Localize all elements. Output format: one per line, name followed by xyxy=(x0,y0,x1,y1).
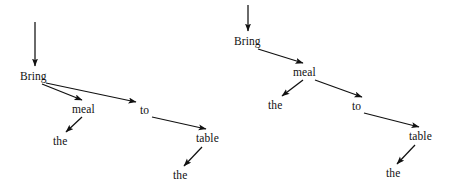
node-label-r-meal: meal xyxy=(293,66,316,78)
node-label-r-bring: Bring xyxy=(234,35,261,47)
node-label-r-table: table xyxy=(409,130,432,142)
node-label-layer: BringmealthetotabletheBringmealthetotabl… xyxy=(0,0,458,191)
node-label-r-the1: the xyxy=(268,99,282,111)
node-label-r-the2: the xyxy=(386,167,400,179)
node-label-l-meal: meal xyxy=(72,103,95,115)
node-label-l-to: to xyxy=(140,104,149,116)
node-label-l-table: table xyxy=(196,132,219,144)
node-label-r-to: to xyxy=(352,100,361,112)
dependency-tree-figure: BringmealthetotabletheBringmealthetotabl… xyxy=(0,0,458,191)
node-label-l-the1: the xyxy=(53,135,67,147)
node-label-l-bring: Bring xyxy=(20,70,47,82)
node-label-l-the2: the xyxy=(173,169,187,181)
